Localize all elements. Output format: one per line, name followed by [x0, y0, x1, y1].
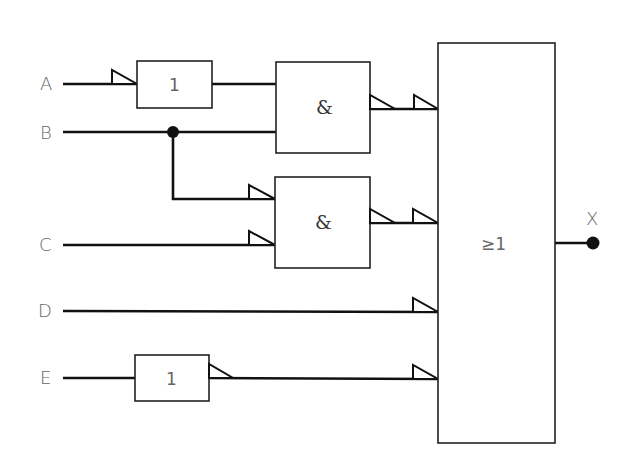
input-label-e: E: [40, 367, 51, 388]
negation-indicator-not-a-input: [112, 70, 137, 84]
wire-b-branch-to-and2: [173, 132, 275, 199]
negation-indicator-or-input-4: [413, 365, 438, 379]
wire-d: [63, 311, 438, 312]
negation-indicator-and1-output: [370, 95, 395, 109]
and-gate-1-symbol: &: [316, 96, 333, 118]
or-gate-symbol: ≥1: [481, 234, 506, 254]
input-label-d: D: [38, 300, 52, 321]
output-terminal-dot: [587, 237, 600, 250]
negation-indicator-and2-input-b: [249, 185, 275, 199]
negation-indicator-or-input-2: [413, 209, 438, 223]
negation-indicator-or-input-1: [414, 95, 438, 109]
wire-not-e-to-or: [209, 378, 438, 379]
negation-indicator-or-input-3: [413, 298, 438, 312]
logic-circuit-diagram: A B C D E 1 & & 1 ≥1 X: [0, 0, 627, 468]
negation-indicator-not-e-output: [209, 364, 233, 378]
input-label-a: A: [40, 73, 52, 94]
negation-indicator-and2-output: [370, 209, 395, 223]
not-gate-e-symbol: 1: [166, 369, 177, 389]
input-label-b: B: [40, 122, 52, 143]
output-label-x: X: [586, 208, 598, 229]
negation-indicator-and2-input-c: [249, 231, 275, 245]
not-gate-a-symbol: 1: [169, 75, 180, 95]
input-label-c: C: [39, 234, 52, 255]
and-gate-2-symbol: &: [315, 211, 332, 233]
